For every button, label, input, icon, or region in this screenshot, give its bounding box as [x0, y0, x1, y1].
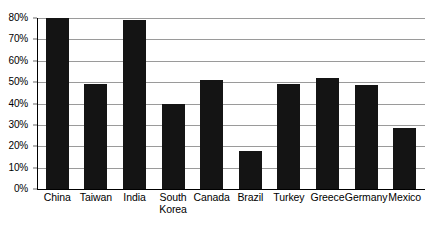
bar	[239, 151, 262, 189]
y-axis-tick-label: 50%	[9, 77, 28, 87]
y-axis-tick-label: 30%	[9, 120, 28, 130]
bar	[355, 85, 378, 189]
bar	[46, 18, 69, 189]
plot-area	[37, 18, 425, 190]
bar	[162, 104, 185, 190]
bar	[200, 80, 223, 189]
bar	[316, 78, 339, 189]
bar	[393, 128, 416, 189]
bar	[277, 84, 300, 189]
y-axis-tick-label: 0%	[14, 184, 28, 194]
bars-layer	[37, 18, 425, 190]
x-axis-tick-label: Mexico	[377, 192, 433, 204]
y-axis-tick-label: 60%	[9, 56, 28, 66]
y-axis-tick-label: 80%	[9, 13, 28, 23]
bar	[84, 84, 107, 189]
y-axis-tick-label: 70%	[9, 34, 28, 44]
bar-chart: 80% 70% 60% 50% 40% 30% 20% 10% 0% China…	[0, 0, 438, 228]
bar	[123, 20, 146, 189]
x-axis: ChinaTaiwanIndiaSouth KoreaCanadaBrazilT…	[37, 192, 425, 226]
y-axis-tick-label: 10%	[9, 163, 28, 173]
y-axis: 80% 70% 60% 50% 40% 30% 20% 10% 0%	[0, 0, 33, 228]
y-axis-tick-label: 20%	[9, 141, 28, 151]
y-axis-tick-label: 40%	[9, 99, 28, 109]
